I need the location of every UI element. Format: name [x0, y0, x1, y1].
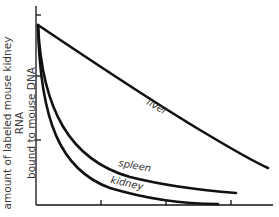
- y-axis-label-line2: bound to mouse DNA: [25, 28, 37, 217]
- x-axis: [36, 200, 273, 205]
- y-axis-label-line1: amount of labeled mouse kidney RNA: [1, 28, 25, 217]
- spleen-label: spleen: [118, 157, 152, 174]
- liver-label: liver: [145, 96, 170, 117]
- y-axis-label: amount of labeled mouse kidney RNA bound…: [1, 28, 37, 217]
- line-chart: liver spleen kidney: [0, 0, 279, 217]
- liver-curve: [38, 25, 268, 168]
